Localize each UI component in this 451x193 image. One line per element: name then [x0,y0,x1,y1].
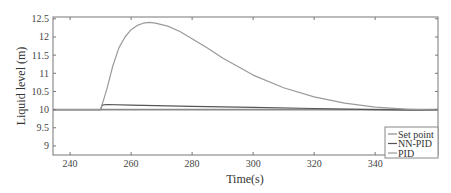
y-tick-label: 9 [44,140,49,151]
legend: Set pointNN-PIDPID [385,127,438,159]
y-tick-label: 10 [39,104,49,115]
y-tick-label: 12.5 [32,13,50,24]
y-tick-label: 9.5 [37,122,50,133]
y-axis-title: Liquid level (m) [14,47,28,126]
x-tick-label: 240 [63,158,78,169]
x-tick-label: 300 [246,158,261,169]
y-tick-label: 11 [39,68,49,79]
plot-frame [53,17,438,155]
x-tick-label: 320 [307,158,322,169]
y-tick-label: 12 [39,31,49,42]
x-tick-label: 340 [368,158,383,169]
chart-canvas: 24026028030032034099.51010.51111.51212.5… [0,0,451,193]
plot-area [53,17,438,155]
y-tick-label: 10.5 [32,86,50,97]
x-tick-label: 280 [185,158,200,169]
y-tick-label: 11.5 [32,50,49,61]
x-axis-title: Time(s) [226,172,264,186]
legend-label: PID [398,148,414,159]
x-tick-label: 260 [124,158,139,169]
